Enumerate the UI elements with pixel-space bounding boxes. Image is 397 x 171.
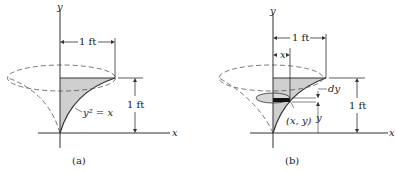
shaded-region-a (60, 78, 115, 133)
x-axis-label-b: x (389, 127, 395, 138)
caption-a: (a) (72, 155, 86, 166)
width-label-b: 1 ft (292, 32, 309, 43)
point-label-b: (x, y) (286, 115, 312, 126)
y-dim-label-b: y (315, 112, 322, 123)
x-dim-label-b: x (280, 49, 286, 60)
height-label-a: 1 ft (127, 99, 144, 110)
x-axis-label-a: x (172, 127, 178, 138)
caption-b: (b) (285, 155, 299, 166)
figure-b: y x 1 ft x dy y 1 ft (x, y) (b) (219, 5, 395, 166)
mirror-curve-b (219, 78, 273, 133)
width-label-a: 1 ft (79, 36, 96, 47)
height-label-b: 1 ft (349, 100, 366, 111)
curve-label-a: y² = x (82, 107, 113, 118)
strip-element (273, 98, 290, 102)
figure-a: y x 1 ft 1 ft y² = x (a) (8, 1, 179, 166)
y-axis-label-a: y (56, 1, 63, 12)
mirror-curve-a (8, 78, 60, 133)
diagram-canvas: y x 1 ft 1 ft y² = x (a) y x (0, 0, 397, 171)
y-axis-label-b: y (269, 5, 276, 16)
dy-label-b: dy (328, 83, 340, 94)
